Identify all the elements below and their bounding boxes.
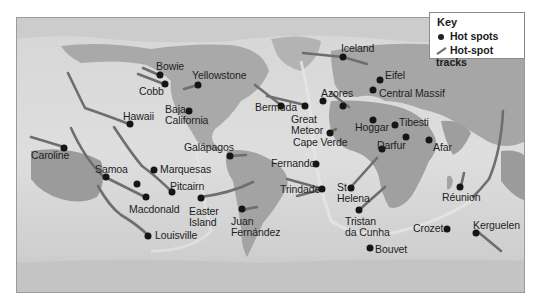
label-trindade: Trindade	[280, 184, 320, 195]
label-bowie: Bowie	[156, 61, 184, 72]
hotspot-dot-tibesti[interactable]	[392, 122, 399, 129]
hotspot-dot-azores-east[interactable]	[340, 103, 347, 110]
label-cobb: Cobb	[139, 86, 164, 97]
label-eifel: Eifel	[385, 70, 405, 81]
label-yellowstone: Yellowstone	[192, 70, 247, 81]
label-kerguelen: Kerguelen	[473, 220, 520, 231]
label-marquesas: Marquesas	[160, 164, 211, 175]
hotspot-dot-easter-island[interactable]	[198, 195, 205, 202]
label-iceland: Iceland	[341, 43, 374, 54]
label-tibesti: Tibesti	[399, 117, 429, 128]
key-title: Key	[437, 16, 457, 28]
label-hoggar: Hoggar	[355, 122, 389, 133]
label-pitcairn: Pitcairn	[170, 181, 204, 192]
label-tristan-da-cunha: Tristan da Cunha	[345, 216, 390, 238]
hot-spot-track-icon	[436, 46, 446, 56]
label-azores: Azores	[321, 88, 353, 99]
hotspot-dot-tristan-da-cunha[interactable]	[356, 207, 363, 214]
label-cape-verde: Cape Verde	[293, 137, 347, 148]
label-central-massif: Central Massif	[379, 88, 445, 99]
label-hawaii: Hawaii	[123, 111, 154, 122]
key-item-hot-spots: Hot spots	[436, 30, 498, 42]
label-fernando: Fernando	[271, 158, 315, 169]
hotspot-dot-eifel[interactable]	[377, 77, 384, 84]
key-label: Hot spots	[450, 30, 498, 42]
label-darfur: Darfur	[377, 140, 406, 151]
label-samoa: Samoa	[95, 164, 128, 175]
label-macdonald: Macdonald	[129, 204, 179, 215]
label-caroline: Caroline	[31, 150, 69, 161]
label-reunion: Réunion	[442, 192, 480, 203]
label-bouvet: Bouvet	[375, 244, 407, 255]
hotspot-dot-louisville[interactable]	[145, 233, 152, 240]
label-galapagos: Galápagos	[184, 142, 234, 153]
hotspot-dot-juan-fernandez[interactable]	[239, 206, 246, 213]
hotspot-dot-afar[interactable]	[426, 137, 433, 144]
hotspot-dot-iceland[interactable]	[340, 54, 347, 61]
hotspot-dot-reunion[interactable]	[457, 184, 464, 191]
hotspot-dot-unnamed[interactable]	[134, 181, 141, 188]
map-key: Key Hot spots Hot-spot tracks	[429, 12, 525, 59]
hot-spot-dot-icon	[436, 32, 446, 42]
hotspot-dot-marquesas[interactable]	[151, 167, 158, 174]
hotspot-dot-bowie[interactable]	[157, 72, 164, 79]
label-afar: Afar	[433, 142, 452, 153]
hotspot-dot-macdonald[interactable]	[143, 194, 150, 201]
label-crozet: Crozet	[413, 223, 443, 234]
hotspot-dot-great-meteor[interactable]	[302, 103, 309, 110]
hotspot-dot-central-massif[interactable]	[370, 87, 377, 94]
label-easter-island: Easter Island	[189, 206, 219, 228]
key-item-hot-spot-tracks: Hot-spot tracks	[436, 44, 524, 68]
label-baja-california: Baja California	[165, 104, 208, 126]
hotspot-dot-bouvet[interactable]	[367, 245, 374, 252]
hotspot-dot-galapagos[interactable]	[227, 153, 234, 160]
label-juan-fernandez: Juan Fernández	[231, 216, 280, 238]
label-bermuda: Bermuda	[255, 102, 297, 113]
label-st-helena: St Helena	[337, 182, 370, 204]
label-louisville: Louisville	[155, 230, 197, 241]
hotspot-dot-crozet[interactable]	[444, 226, 451, 233]
hotspot-dot-yellowstone[interactable]	[195, 82, 202, 89]
label-great-meteor: Great Meteor	[291, 114, 323, 136]
